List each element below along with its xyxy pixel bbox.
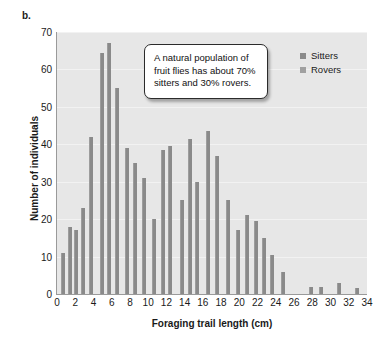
legend-swatch-icon bbox=[300, 53, 306, 59]
bar bbox=[309, 287, 313, 294]
legend-item: Rovers bbox=[300, 64, 341, 75]
x-tick-label: 34 bbox=[355, 297, 379, 308]
bar bbox=[74, 230, 78, 294]
bar bbox=[262, 238, 266, 294]
bar bbox=[254, 221, 258, 294]
bar bbox=[68, 227, 72, 294]
bar bbox=[89, 137, 93, 294]
bar bbox=[319, 287, 323, 294]
y-axis-title: Number of individuals bbox=[29, 69, 40, 269]
legend-swatch-icon bbox=[300, 67, 306, 73]
bar bbox=[206, 131, 210, 294]
bar bbox=[226, 200, 230, 294]
bar bbox=[152, 219, 156, 294]
bar bbox=[161, 150, 165, 294]
bar bbox=[168, 146, 172, 294]
bar bbox=[107, 43, 111, 294]
annotation-callout: A natural population of fruit flies has … bbox=[144, 44, 268, 99]
bar bbox=[337, 283, 341, 294]
bar bbox=[281, 272, 285, 294]
gridline bbox=[57, 32, 367, 33]
bar bbox=[115, 88, 119, 294]
legend-label: Rovers bbox=[311, 64, 341, 75]
bar bbox=[61, 253, 65, 294]
x-axis-title: Foraging trail length (cm) bbox=[57, 318, 367, 329]
bar bbox=[142, 178, 146, 294]
bar bbox=[270, 255, 274, 294]
bar bbox=[133, 163, 137, 294]
bar bbox=[100, 53, 104, 294]
bar bbox=[195, 182, 199, 294]
y-axis-line bbox=[56, 32, 57, 295]
x-axis-ticks: 0246810121416182022242628303234 bbox=[0, 297, 385, 313]
annotation-callout-text: A natural population of fruit flies has … bbox=[154, 52, 259, 90]
bar bbox=[188, 139, 192, 294]
bar bbox=[236, 230, 240, 294]
legend-label: Sitters bbox=[311, 50, 338, 61]
bar bbox=[245, 215, 249, 294]
bar bbox=[215, 156, 219, 294]
bar bbox=[180, 200, 184, 294]
figure-panel-b: b. 010203040506070 Number of individuals… bbox=[0, 0, 385, 345]
bar bbox=[81, 208, 85, 294]
legend-item: Sitters bbox=[300, 50, 341, 61]
legend: SittersRovers bbox=[300, 50, 341, 78]
x-axis-line bbox=[56, 294, 367, 295]
bar bbox=[125, 148, 129, 294]
y-tick-label: 70 bbox=[26, 27, 52, 38]
